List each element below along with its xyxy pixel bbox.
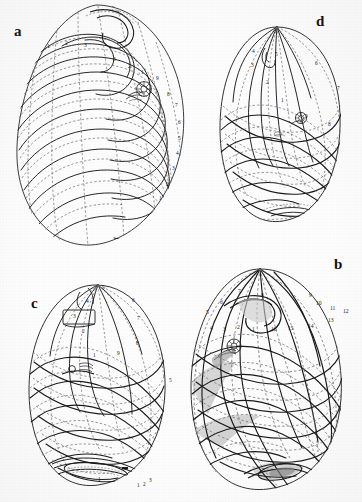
svg-text:9: 9 [117, 350, 120, 356]
svg-text:5: 5 [178, 135, 181, 141]
panel-b-drawing: 7 8 6 5 4 3 2 1 9 10 11 12 13 14 15 16 [178, 262, 362, 502]
svg-text:2: 2 [128, 63, 131, 69]
svg-text:9: 9 [309, 292, 312, 298]
svg-text:5: 5 [169, 377, 172, 383]
svg-text:1: 1 [137, 482, 140, 488]
svg-text:11: 11 [330, 305, 336, 311]
panel-letter-c: c [31, 296, 38, 311]
svg-text:4: 4 [252, 48, 255, 54]
growth-lines-a [18, 34, 170, 248]
svg-text:2: 2 [166, 181, 169, 187]
panel-d-drawing: 4 5 3 2 1 6 7 8 9 [205, 10, 362, 245]
panel-d: 4 5 3 2 1 6 7 8 9 [205, 10, 362, 245]
aperture-tick-c [122, 467, 128, 469]
svg-text:2: 2 [143, 481, 146, 487]
svg-text:3: 3 [73, 313, 76, 319]
svg-text:10: 10 [316, 300, 322, 306]
svg-text:5: 5 [275, 51, 278, 57]
svg-text:3: 3 [113, 56, 116, 62]
svg-text:7: 7 [137, 315, 140, 321]
svg-text:4: 4 [176, 150, 179, 156]
svg-text:9: 9 [305, 113, 308, 119]
svg-text:3: 3 [84, 42, 87, 48]
panel-letter-d: d [316, 14, 324, 29]
svg-text:6: 6 [220, 299, 223, 305]
apex-loop-d [262, 48, 275, 68]
svg-text:13: 13 [328, 317, 334, 323]
svg-text:8: 8 [328, 121, 331, 127]
svg-text:7: 7 [337, 85, 340, 91]
svg-text:2: 2 [266, 79, 269, 85]
svg-text:2: 2 [65, 40, 68, 46]
svg-text:1: 1 [281, 97, 284, 103]
svg-text:1: 1 [47, 43, 50, 49]
svg-text:7: 7 [238, 288, 241, 294]
svg-text:5: 5 [102, 284, 105, 290]
svg-text:12: 12 [343, 308, 349, 314]
panel-b: 7 8 6 5 4 3 2 1 9 10 11 12 13 14 15 16 [178, 262, 362, 502]
panel-a-drawing: 1 2 3 3 2 1 9 8 7 6 5 4 3 2 1 [0, 0, 200, 255]
svg-text:2: 2 [237, 324, 240, 330]
panel-letter-a: a [14, 24, 22, 39]
dashed-meridians-d [235, 27, 339, 196]
svg-text:8: 8 [261, 292, 264, 298]
dashed-meridians-c [51, 285, 164, 464]
svg-text:1: 1 [252, 326, 255, 332]
basal-slit-d [267, 208, 315, 217]
svg-text:1: 1 [159, 195, 162, 201]
svg-text:1: 1 [98, 476, 101, 482]
svg-text:3: 3 [149, 477, 152, 483]
svg-text:6: 6 [178, 119, 181, 125]
svg-text:1: 1 [93, 352, 96, 358]
svg-text:2: 2 [82, 328, 85, 334]
svg-text:16: 16 [271, 326, 277, 332]
panel-letter-b: b [334, 257, 342, 272]
svg-text:8: 8 [136, 340, 139, 346]
panel-a: 1 2 3 3 2 1 9 8 7 6 5 4 3 2 1 [0, 0, 200, 255]
panel-c: 5 4 3 2 1 6 7 8 9 5 1 1 2 3 [18, 278, 183, 502]
svg-text:4: 4 [86, 298, 89, 304]
svg-text:6: 6 [315, 60, 318, 66]
figure-plate: 1 2 3 3 2 1 9 8 7 6 5 4 3 2 1 a [0, 0, 362, 502]
svg-text:6: 6 [132, 297, 135, 303]
svg-text:15: 15 [288, 325, 294, 331]
svg-text:3: 3 [223, 326, 226, 332]
svg-text:3: 3 [172, 165, 175, 171]
svg-text:5: 5 [206, 309, 209, 315]
svg-text:14: 14 [308, 323, 314, 329]
panel-c-drawing: 5 4 3 2 1 6 7 8 9 5 1 1 2 3 [18, 278, 183, 502]
svg-text:9: 9 [156, 75, 159, 81]
panel-c-labels: 5 4 3 2 1 6 7 8 9 5 1 1 2 3 [73, 284, 172, 488]
svg-text:3: 3 [251, 62, 254, 68]
svg-text:1: 1 [141, 69, 144, 75]
svg-text:8: 8 [167, 91, 170, 97]
svg-text:4: 4 [210, 325, 213, 331]
svg-text:7: 7 [175, 102, 178, 108]
